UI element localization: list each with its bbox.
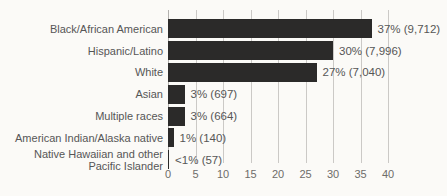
chart-row: Asian 3% (697) (0, 83, 447, 105)
chart-row: Hispanic/Latino 30% (7,996) (0, 40, 447, 62)
chart-row: American Indian/Alaska native 1% (140) (0, 127, 447, 149)
value-label: 3% (664) (191, 110, 238, 122)
value-label: 27% (7,040) (323, 66, 386, 78)
category-label: American Indian/Alaska native (0, 132, 163, 144)
category-label: Multiple races (0, 110, 163, 122)
value-label: 1% (140) (180, 132, 227, 144)
category-label: Asian (0, 88, 163, 100)
chart-row: Multiple races 3% (664) (0, 105, 447, 127)
bar (168, 41, 333, 60)
x-tick-label: 40 (382, 168, 394, 180)
x-tick-label: 20 (272, 168, 284, 180)
bar (168, 63, 317, 82)
x-tick-label: 5 (192, 168, 198, 180)
bar (168, 85, 185, 104)
value-label: <1% (57) (175, 154, 222, 166)
category-label: Hispanic/Latino (0, 45, 163, 57)
category-label: Black/African American (0, 23, 163, 35)
value-label: 30% (7,996) (339, 45, 402, 57)
bar (168, 128, 174, 147)
x-tick-label: 10 (217, 168, 229, 180)
chart-row: White 27% (7,040) (0, 62, 447, 84)
x-tick-label: 0 (165, 168, 171, 180)
x-tick-label: 15 (244, 168, 256, 180)
x-axis: 0510152025303540 (0, 168, 447, 182)
chart-rows: Black/African American 37% (9,712) Hispa… (0, 18, 447, 171)
x-tick-label: 35 (354, 168, 366, 180)
chart-row: Black/African American 37% (9,712) (0, 18, 447, 40)
x-tick-label: 25 (299, 168, 311, 180)
bar-chart: Black/African American 37% (9,712) Hispa… (0, 0, 447, 196)
bar (168, 150, 169, 169)
value-label: 37% (9,712) (378, 23, 441, 35)
value-label: 3% (697) (191, 88, 238, 100)
bar (168, 107, 185, 126)
bar (168, 19, 372, 38)
category-label: White (0, 66, 163, 78)
x-tick-label: 30 (327, 168, 339, 180)
